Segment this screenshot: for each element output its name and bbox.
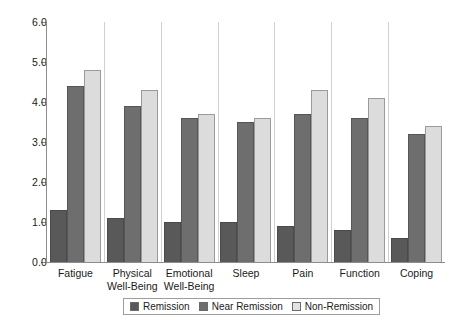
bar-group <box>274 22 331 262</box>
legend-item: Near Remission <box>199 301 283 312</box>
x-tick-label: Coping <box>374 267 460 280</box>
x-axis-line <box>46 262 445 263</box>
y-tick-label: 1.0 <box>13 217 47 228</box>
group-separator <box>104 22 105 262</box>
plot-area <box>47 22 445 262</box>
bar-group-bars <box>388 22 445 262</box>
bar <box>67 86 84 262</box>
bar-group-bars <box>47 22 104 262</box>
bar <box>277 226 294 262</box>
chart-legend: RemissionNear RemissionNon-Remission <box>123 298 380 315</box>
legend-label: Remission <box>143 301 190 312</box>
bar <box>124 106 141 262</box>
legend-swatch-icon <box>130 302 139 311</box>
y-tick-label: 5.0 <box>13 57 47 68</box>
group-separator <box>161 22 162 262</box>
legend-label: Non-Remission <box>305 301 373 312</box>
bar <box>181 118 198 262</box>
group-separator <box>388 22 389 262</box>
bar <box>351 118 368 262</box>
bar <box>50 210 67 262</box>
bar <box>425 126 442 262</box>
y-tick-label: 4.0 <box>13 97 47 108</box>
group-separator <box>218 22 219 262</box>
bar-group-bars <box>218 22 275 262</box>
bar <box>311 90 328 262</box>
bar-group <box>388 22 445 262</box>
bar-group-bars <box>161 22 218 262</box>
bar <box>84 70 101 262</box>
bar <box>141 90 158 262</box>
group-separator <box>274 22 275 262</box>
legend-item: Remission <box>130 301 190 312</box>
bar-group <box>161 22 218 262</box>
y-axis: 0.01.02.03.04.05.06.0 <box>0 0 47 331</box>
bar <box>334 230 351 262</box>
bar <box>237 122 254 262</box>
legend-swatch-icon <box>199 302 208 311</box>
figure-caption <box>4 321 463 331</box>
bar-group-bars <box>104 22 161 262</box>
bar <box>198 114 215 262</box>
y-tick-label: 0.0 <box>13 257 47 268</box>
bar-group-bars <box>274 22 331 262</box>
bar <box>294 114 311 262</box>
bar-group <box>331 22 388 262</box>
bar-group-bars <box>331 22 388 262</box>
bar <box>107 218 124 262</box>
chart-figure: 0.01.02.03.04.05.06.0 RemissionNear Remi… <box>0 0 467 331</box>
bar <box>220 222 237 262</box>
bar <box>164 222 181 262</box>
bar-group <box>104 22 161 262</box>
bar <box>408 134 425 262</box>
group-separator <box>331 22 332 262</box>
bar <box>254 118 271 262</box>
bar <box>391 238 408 262</box>
bar-group <box>47 22 104 262</box>
y-tick-label: 2.0 <box>13 177 47 188</box>
legend-swatch-icon <box>292 302 301 311</box>
legend-label: Near Remission <box>212 301 283 312</box>
y-tick-label: 3.0 <box>13 137 47 148</box>
legend-item: Non-Remission <box>292 301 373 312</box>
bar-group <box>218 22 275 262</box>
y-tick-label: 6.0 <box>13 17 47 28</box>
bar <box>368 98 385 262</box>
